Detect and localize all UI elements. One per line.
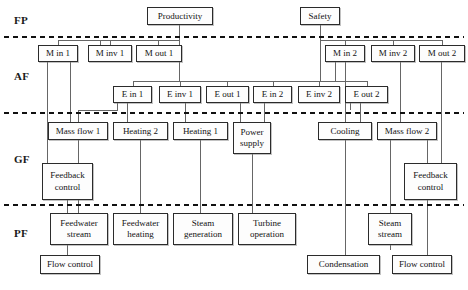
node-productivity[interactable]: Productivity <box>147 7 213 25</box>
level-label-af: AF <box>14 70 29 82</box>
node-heating-2[interactable]: Heating 2 <box>113 122 168 140</box>
node-e-inv-2[interactable]: E inv 2 <box>298 86 340 103</box>
node-e-in-2[interactable]: E in 2 <box>253 86 292 103</box>
level-label-pf: PF <box>14 227 28 239</box>
node-steam-stream[interactable]: Steam stream <box>368 213 412 245</box>
node-flow-control-right[interactable]: Flow control <box>392 255 452 274</box>
node-label: Mass flow 1 <box>51 126 105 136</box>
node-power-supply[interactable]: Power supply <box>233 122 271 154</box>
node-label: E out 1 <box>209 89 246 99</box>
node-label: Feedwater stream <box>53 218 105 241</box>
level-label-fp: FP <box>14 14 28 26</box>
node-label: Condensation <box>310 259 377 269</box>
node-label: M out 1 <box>139 48 179 58</box>
node-m-in-1[interactable]: M in 1 <box>38 45 78 62</box>
node-label: Feedback control <box>407 170 454 193</box>
node-label: E inv 1 <box>162 89 198 99</box>
node-label: Turbine operation <box>241 218 293 241</box>
node-heating-1[interactable]: Heating 1 <box>173 122 228 140</box>
node-label: Safety <box>303 11 337 21</box>
node-flow-control-left[interactable]: Flow control <box>40 255 100 274</box>
node-mass-flow-2[interactable]: Mass flow 2 <box>377 122 437 140</box>
node-m-inv-2[interactable]: M inv 2 <box>371 45 415 62</box>
node-label: M inv 2 <box>374 48 412 58</box>
node-label: M in 2 <box>328 48 362 58</box>
node-label: E out 2 <box>348 89 385 99</box>
node-feedwater-heating[interactable]: Feedwater heating <box>113 213 168 245</box>
node-safety[interactable]: Safety <box>300 7 340 25</box>
node-feedback-control-left[interactable]: Feedback control <box>42 163 93 200</box>
node-m-inv-1[interactable]: M inv 1 <box>88 45 132 62</box>
node-label: Productivity <box>150 11 210 21</box>
node-e-out-1[interactable]: E out 1 <box>206 86 249 103</box>
node-m-in-2[interactable]: M in 2 <box>325 45 365 62</box>
level-label-gf: GF <box>14 153 30 165</box>
node-mass-flow-1[interactable]: Mass flow 1 <box>48 122 108 140</box>
node-label: Feedwater heating <box>116 218 165 241</box>
node-label: Feedback control <box>45 170 90 193</box>
node-turbine-operation[interactable]: Turbine operation <box>238 213 296 245</box>
node-label: Steam generation <box>176 218 230 241</box>
node-feedwater-stream[interactable]: Feedwater stream <box>50 213 108 245</box>
node-feedback-control-right[interactable]: Feedback control <box>404 163 457 200</box>
node-steam-generation[interactable]: Steam generation <box>173 213 233 245</box>
node-label: Flow control <box>395 259 449 269</box>
abstraction-hierarchy-diagram: FPAFGFPF ProductivitySafetyM in 1M inv 1… <box>0 0 468 290</box>
node-label: Mass flow 2 <box>380 126 434 136</box>
node-m-out-1[interactable]: M out 1 <box>136 45 182 62</box>
node-label: M inv 1 <box>91 48 129 58</box>
node-label: Power supply <box>236 127 268 150</box>
node-e-in-1[interactable]: E in 1 <box>113 86 152 103</box>
node-label: M out 2 <box>422 48 462 58</box>
node-e-inv-1[interactable]: E inv 1 <box>159 86 201 103</box>
node-m-out-2[interactable]: M out 2 <box>419 45 465 62</box>
node-label: Cooling <box>321 126 369 136</box>
node-e-out-2[interactable]: E out 2 <box>345 86 388 103</box>
node-label: Heating 2 <box>116 126 165 136</box>
node-label: Flow control <box>43 259 97 269</box>
node-cooling[interactable]: Cooling <box>318 122 372 140</box>
node-condensation[interactable]: Condensation <box>307 255 380 274</box>
node-label: E in 1 <box>116 89 149 99</box>
node-label: Heating 1 <box>176 126 225 136</box>
node-label: E inv 2 <box>301 89 337 99</box>
node-label: M in 1 <box>41 48 75 58</box>
node-label: Steam stream <box>371 218 409 241</box>
node-label: E in 2 <box>256 89 289 99</box>
